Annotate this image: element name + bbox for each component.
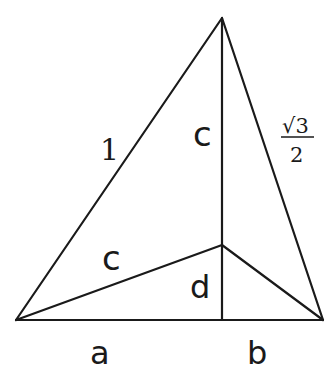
label-inner-segment: c xyxy=(102,238,121,278)
segment-inner-to-right xyxy=(222,245,323,320)
label-base-right: b xyxy=(247,334,267,372)
label-altitude-upper: c xyxy=(193,114,212,154)
edge-right-side xyxy=(222,18,323,320)
label-left-side: 1 xyxy=(100,132,119,167)
label-altitude-lower: d xyxy=(190,268,210,306)
triangle-diagram: 1 c √3 2 c d a b xyxy=(0,0,332,377)
label-base-left: a xyxy=(90,334,110,372)
label-right-side-numerator: √3 xyxy=(282,114,309,138)
label-right-side-denominator: 2 xyxy=(290,143,303,167)
